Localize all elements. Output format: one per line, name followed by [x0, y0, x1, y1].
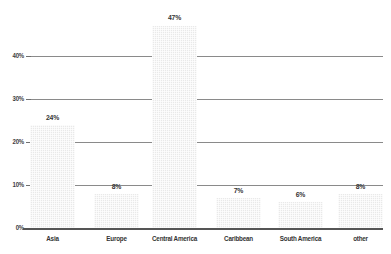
- y-axis-tick-label-40: 40%: [5, 52, 24, 60]
- gridline-10: [30, 185, 383, 186]
- x-axis-label-caribbean: Caribbean: [213, 234, 264, 244]
- bar-caribbean[interactable]: [216, 198, 261, 228]
- bar-value-europe: 8%: [97, 182, 135, 191]
- bar-europe[interactable]: [94, 194, 139, 228]
- bar-asia[interactable]: [30, 125, 75, 228]
- y-axis-tick-mark-30: [26, 99, 31, 100]
- gridline-20: [30, 142, 383, 143]
- x-axis-label-south-america: South America: [271, 234, 331, 244]
- gridline-40: [30, 56, 383, 57]
- bar-central-america[interactable]: [152, 26, 197, 228]
- bar-other[interactable]: [338, 194, 383, 228]
- plot-area: 40% 30% 20% 10% 0% 24% 8% 47% 7% 6% 8% A…: [0, 0, 391, 254]
- y-axis-tick-label-30: 30%: [5, 95, 24, 103]
- gridline-30: [30, 99, 383, 100]
- bar-value-central-america: 47%: [155, 13, 193, 22]
- bar-value-caribbean: 7%: [219, 186, 257, 195]
- bar-value-other: 8%: [341, 182, 379, 191]
- y-axis-tick-label-0: 0%: [5, 224, 24, 232]
- bar-chart: 40% 30% 20% 10% 0% 24% 8% 47% 7% 6% 8% A…: [0, 0, 391, 254]
- y-axis-tick-label-20: 20%: [5, 138, 24, 146]
- bar-south-america[interactable]: [278, 202, 323, 228]
- x-axis-label-central-america: Central America: [145, 234, 205, 244]
- x-axis-label-other: other: [335, 234, 386, 244]
- bar-value-south-america: 6%: [281, 190, 319, 199]
- x-axis-label-europe: Europe: [91, 234, 142, 244]
- x-axis-label-asia: Asia: [27, 234, 78, 244]
- y-axis-tick-label-10: 10%: [5, 181, 24, 189]
- x-axis-line: [23, 228, 383, 230]
- y-axis-tick-mark-40: [26, 56, 31, 57]
- bar-value-asia: 24%: [33, 113, 71, 122]
